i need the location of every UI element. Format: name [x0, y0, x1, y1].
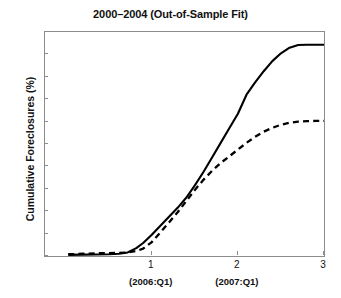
- x-tick-mark: [237, 251, 238, 255]
- chart-curves: [45, 32, 324, 256]
- y-tick-mark: [44, 53, 48, 54]
- x-tick-mark: [151, 251, 152, 255]
- y-tick-mark: [44, 143, 48, 144]
- series-line-predicted: [68, 121, 324, 254]
- y-tick-mark: [44, 233, 48, 234]
- series-line-actual: [68, 45, 324, 255]
- y-tick-mark: [44, 31, 48, 32]
- x-tick-mark: [323, 251, 324, 255]
- x-tick-sublabel: (2007:Q1): [192, 276, 282, 287]
- x-tick-label: 3: [303, 259, 341, 270]
- x-tick-label: 2: [217, 259, 257, 270]
- y-tick-mark: [44, 121, 48, 122]
- plot-area: [44, 31, 325, 257]
- x-tick-sublabel: (2006:Q1): [106, 276, 196, 287]
- y-axis-label: Cumulative Foreclosures (%): [24, 49, 36, 249]
- chart-figure: 2000–2004 (Out-of-Sample Fit) Cumulative…: [0, 0, 341, 298]
- y-tick-mark: [44, 255, 48, 256]
- chart-title: 2000–2004 (Out-of-Sample Fit): [0, 8, 341, 20]
- y-tick-mark: [44, 188, 48, 189]
- y-tick-mark: [44, 165, 48, 166]
- y-tick-mark: [44, 76, 48, 77]
- y-tick-mark: [44, 210, 48, 211]
- y-tick-mark: [44, 98, 48, 99]
- x-tick-label: 1: [131, 259, 171, 270]
